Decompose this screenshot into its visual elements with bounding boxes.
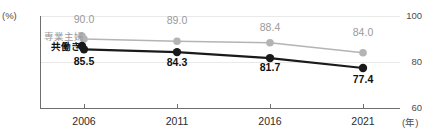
series-label-dualincome: 共働き <box>51 42 81 52</box>
data-label-housewife-2016: 88.4 <box>242 22 298 33</box>
data-label-housewife-2021: 84.0 <box>335 27 391 38</box>
series-marker-housewife-2011 <box>173 38 181 46</box>
data-label-housewife-2006: 90.0 <box>56 14 112 25</box>
data-label-dualincome-2011: 84.3 <box>149 57 205 68</box>
series-line-dualincome <box>84 49 363 68</box>
data-label-dualincome-2016: 81.7 <box>242 62 298 73</box>
series-marker-dualincome-2021 <box>359 64 367 72</box>
data-label-dualincome-2006: 85.5 <box>56 56 112 67</box>
data-label-dualincome-2021: 77.4 <box>335 74 391 85</box>
series-marker-housewife-2021 <box>359 49 367 57</box>
series-marker-housewife-2016 <box>266 39 274 47</box>
data-label-housewife-2011: 89.0 <box>149 15 205 26</box>
line-chart: (%) 100 80 60 2006 2011 2016 2021 (年) 90… <box>0 0 422 134</box>
